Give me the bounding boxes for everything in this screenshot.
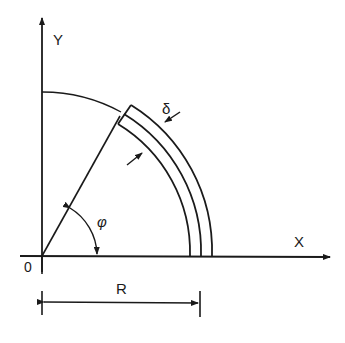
tube-diagram: Y X 0 φ δ R — [0, 0, 345, 343]
origin-label: 0 — [24, 259, 32, 275]
thickness-delta-label: δ — [162, 100, 170, 117]
radius-label: R — [116, 280, 127, 297]
y-axis-label: Y — [53, 31, 63, 48]
x-axis-label: X — [294, 233, 304, 250]
thickness-indicator — [127, 112, 180, 165]
radial-line — [42, 116, 120, 256]
angle-phi-indicator — [70, 208, 97, 254]
tube-inner-wall — [118, 124, 190, 256]
angle-phi-label: φ — [97, 213, 107, 230]
x-axis — [20, 256, 330, 257]
reference-arc — [42, 92, 121, 112]
tube-end-cap — [118, 105, 131, 124]
curved-tube — [118, 105, 212, 256]
